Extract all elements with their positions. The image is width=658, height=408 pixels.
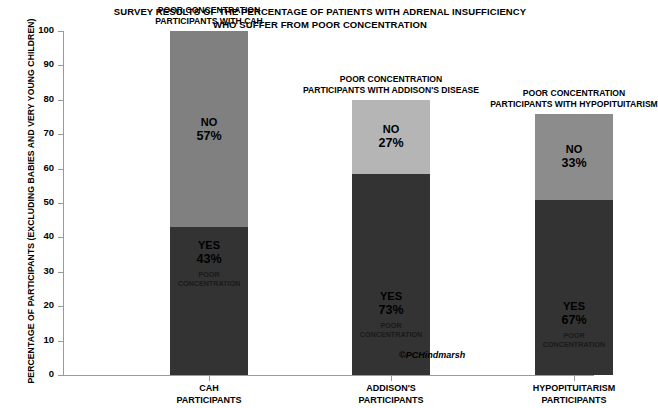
y-axis-tick: 70 (58, 134, 63, 135)
y-axis-tick-label: 40 (43, 230, 54, 241)
y-axis-tick-label: 70 (43, 127, 54, 138)
bar-segment-no-value: 57% (196, 129, 221, 143)
y-axis-tick-label: 80 (43, 93, 54, 104)
stacked-bar[interactable]: POOR CONCENTRATIONPARTICIPANTS WITH ADDI… (352, 100, 430, 375)
y-axis-tick-label: 60 (43, 162, 54, 173)
bar-segment-yes-sublabel-line-1: POOR (360, 321, 423, 330)
bar-segment-yes-label: YES (198, 239, 220, 252)
bar-segment-no-value: 33% (561, 156, 586, 170)
x-axis-category-label: ADDISON'SPARTICIPANTS (358, 383, 423, 406)
bar-segment-yes-sublabel-line-2: CONCENTRATION (360, 330, 423, 339)
y-axis-tick: 90 (58, 65, 63, 66)
bar-caption-line-2: PARTICIPANTS WITH CAH (155, 16, 263, 27)
bar-segment-no-label: NO (566, 143, 583, 156)
bar-segment-yes[interactable]: YES67%POORCONCENTRATION (535, 200, 613, 375)
y-axis-title: PERCENTAGE OF PARTICIPANTS (EXCLUDING BA… (26, 6, 36, 396)
bar-segment-no[interactable]: NO33% (535, 114, 613, 200)
bar-caption-line-1: POOR CONCENTRATION (490, 88, 658, 99)
x-axis-category-label-line-1: HYPOPITUITARISM (533, 383, 615, 395)
bar-segment-yes-sublabel-line-2: CONCENTRATION (543, 340, 606, 349)
y-axis-tick-label: 20 (43, 299, 54, 310)
x-axis-category-label: CAHPARTICIPANTS (176, 383, 241, 406)
y-axis-tick: 0 (58, 375, 63, 376)
bar-segment-yes-value: 43% (196, 252, 221, 266)
stacked-bar[interactable]: POOR CONCENTRATIONPARTICIPANTS WITH HYPO… (535, 114, 613, 375)
x-axis-tick (391, 376, 392, 381)
stacked-bar[interactable]: POOR CONCENTRATIONPARTICIPANTS WITH CAHN… (170, 31, 248, 375)
bar-segment-yes-sublabel-line-1: POOR (178, 270, 241, 279)
bar-segment-yes-sublabel: POORCONCENTRATION (360, 321, 423, 339)
bar-segment-yes[interactable]: YES73%POORCONCENTRATION (352, 174, 430, 375)
bar-segment-no-label: NO (201, 116, 218, 129)
bar-caption-line-1: POOR CONCENTRATION (303, 74, 479, 85)
y-axis-tick-label: 30 (43, 265, 54, 276)
bar-segment-yes-sublabel: POORCONCENTRATION (178, 270, 241, 288)
bar-segment-yes-label: YES (563, 300, 585, 313)
y-axis-tick-label: 0 (49, 368, 54, 379)
x-axis-line (63, 375, 594, 376)
chart-title-line-2: WHO SUFFER FROM POOR CONCENTRATION (60, 19, 580, 32)
y-axis-tick: 80 (58, 100, 63, 101)
bar-segment-no[interactable]: NO27% (352, 100, 430, 174)
y-axis-tick: 10 (58, 341, 63, 342)
y-axis-tick: 50 (58, 203, 63, 204)
x-axis-tick (574, 376, 575, 381)
bar-caption-line-1: POOR CONCENTRATION (155, 5, 263, 16)
bar-segment-yes-value: 67% (561, 313, 586, 327)
chart-title: SURVEY RESULTS OF THE PERCENTAGE OF PATI… (60, 6, 580, 31)
bar-segment-yes[interactable]: YES43%POORCONCENTRATION (170, 227, 248, 375)
x-axis-category-label-line-1: ADDISON'S (358, 383, 423, 395)
y-axis-tick: 40 (58, 237, 63, 238)
plot-area: 0102030405060708090100 POOR CONCENTRATIO… (63, 31, 594, 375)
x-axis-category-label-line-1: CAH (176, 383, 241, 395)
bar-segment-yes-sublabel-line-2: CONCENTRATION (178, 279, 241, 288)
bar-group[interactable]: POOR CONCENTRATIONPARTICIPANTS WITH ADDI… (352, 31, 430, 375)
y-axis-tick: 60 (58, 169, 63, 170)
y-axis-tick-label: 50 (43, 196, 54, 207)
bar-segment-no-label: NO (383, 123, 400, 136)
x-axis-category-label-line-2: PARTICIPANTS (176, 395, 241, 407)
bar-caption: POOR CONCENTRATIONPARTICIPANTS WITH ADDI… (303, 74, 479, 96)
bar-caption-line-2: PARTICIPANTS WITH HYPOPITUITARISM (490, 99, 658, 110)
bar-caption: POOR CONCENTRATIONPARTICIPANTS WITH HYPO… (490, 88, 658, 110)
bar-segment-yes-value: 73% (378, 303, 403, 317)
bar-group[interactable]: POOR CONCENTRATIONPARTICIPANTS WITH HYPO… (535, 31, 613, 375)
chart-title-line-1: SURVEY RESULTS OF THE PERCENTAGE OF PATI… (60, 6, 580, 19)
x-axis-tick (209, 376, 210, 381)
bar-caption-line-2: PARTICIPANTS WITH ADDISON'S DISEASE (303, 85, 479, 96)
y-axis-tick-label: 10 (43, 334, 54, 345)
bar-segment-yes-sublabel-line-1: POOR (543, 331, 606, 340)
bar-group[interactable]: POOR CONCENTRATIONPARTICIPANTS WITH CAHN… (170, 31, 248, 375)
x-axis-category-label-line-2: PARTICIPANTS (358, 395, 423, 407)
x-axis-category-label-line-2: PARTICIPANTS (533, 395, 615, 407)
bar-segment-no-value: 27% (378, 136, 403, 150)
y-axis-tick: 20 (58, 306, 63, 307)
y-axis-tick: 30 (58, 272, 63, 273)
y-axis-line (63, 31, 64, 375)
copyright-credit: ©PCHindmarsh (399, 350, 465, 360)
bar-segment-yes-sublabel: POORCONCENTRATION (543, 331, 606, 349)
y-axis-tick-label: 100 (38, 24, 54, 35)
bar-caption: POOR CONCENTRATIONPARTICIPANTS WITH CAH (155, 5, 263, 27)
y-axis-tick-label: 90 (43, 58, 54, 69)
y-axis-tick: 100 (58, 31, 63, 32)
bar-segment-yes-label: YES (380, 290, 402, 303)
x-axis-category-label: HYPOPITUITARISMPARTICIPANTS (533, 383, 615, 406)
bar-segment-no[interactable]: NO57% (170, 31, 248, 227)
